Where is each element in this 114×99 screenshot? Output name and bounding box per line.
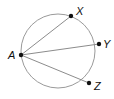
circle [21,14,95,88]
point-z [87,81,91,85]
label-z: Z [93,80,102,92]
label-a: A [7,49,15,61]
circle-diagram: A X Y Z [0,0,114,99]
chord-az [21,55,89,83]
point-y [97,42,101,46]
label-x: X [75,5,84,17]
point-a [19,53,23,57]
label-y: Y [103,38,111,50]
point-x [69,14,73,18]
